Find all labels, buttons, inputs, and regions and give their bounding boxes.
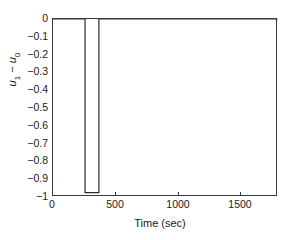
- x-axis-label: Time (sec): [0, 217, 292, 229]
- y-tick-label: −1: [0, 190, 48, 202]
- y-tick-label: −0.9: [0, 172, 48, 184]
- y-tick-label: −0.7: [0, 137, 48, 149]
- y-axis-label-operator: −: [6, 66, 18, 72]
- chart-figure: 0 −0.1 −0.2 −0.3 −0.4 −0.5 −0.6 −0.7 −0.…: [0, 0, 292, 240]
- data-trace-svg: [53, 19, 278, 197]
- x-tick-mark: [115, 192, 116, 196]
- y-axis-label-var1: u: [6, 80, 18, 86]
- x-tick-label: 1000: [166, 198, 189, 210]
- plot-area: [52, 18, 277, 196]
- y-axis-label-minus: [6, 73, 18, 76]
- x-tick-mark: [178, 192, 179, 196]
- x-axis-label-text: Time (sec): [134, 217, 186, 229]
- x-tick-mark: [240, 192, 241, 196]
- y-axis-label-sub1: 1: [13, 76, 22, 80]
- x-tick-label: 1500: [228, 198, 251, 210]
- y-axis-label-sub2: 0: [13, 53, 22, 57]
- y-axis-label-var2: u: [6, 57, 18, 63]
- series-u1-minus-u0: [53, 19, 278, 193]
- x-tick-label: 500: [106, 198, 124, 210]
- y-tick-label: −0.8: [0, 154, 48, 166]
- y-axis-label: u1 − u0: [6, 10, 21, 130]
- x-tick-label: 0: [49, 198, 55, 210]
- x-tick-mark: [52, 192, 53, 196]
